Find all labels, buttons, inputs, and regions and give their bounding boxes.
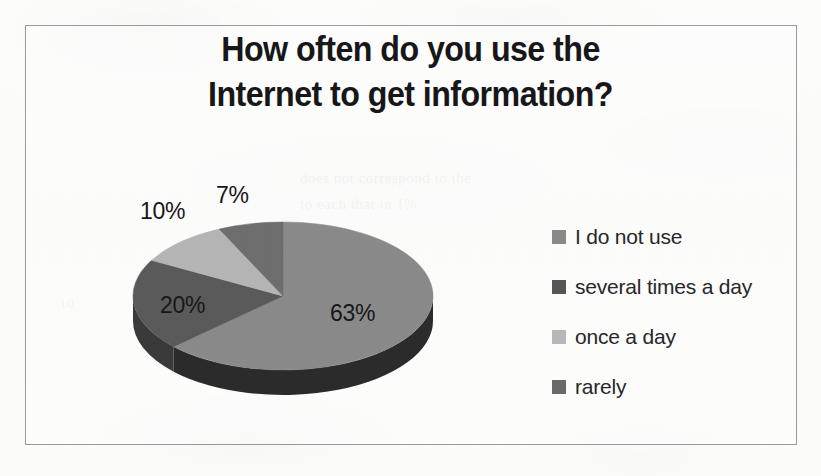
pie-value-label: 7% [216,182,249,209]
scanned-page: does not correspond to theto each that i… [0,0,821,476]
legend-item-label: once a day [575,325,676,349]
pie-chart: 7%10%20%63% [108,170,468,420]
pie-value-label: 20% [160,292,205,319]
chart-title-line-1: How often do you use the [33,26,788,71]
chart-title-line-2: Internet to get information? [33,71,788,116]
legend-swatch-icon [552,230,566,244]
legend-item-label: several times a day [575,275,752,299]
legend-swatch-icon [552,330,566,344]
chart-legend: I do not useseveral times a dayonce a da… [552,212,752,412]
legend-swatch-icon [552,380,566,394]
legend-item[interactable]: rarely [552,362,752,412]
legend-item[interactable]: I do not use [552,212,752,262]
legend-item-label: I do not use [575,225,682,249]
pie-value-label: 10% [140,198,185,225]
pie-value-label: 63% [330,300,375,327]
legend-item[interactable]: several times a day [552,262,752,312]
legend-swatch-icon [552,280,566,294]
chart-title: How often do you use the Internet to get… [33,26,788,116]
legend-item-label: rarely [575,375,626,399]
legend-item[interactable]: once a day [552,312,752,362]
